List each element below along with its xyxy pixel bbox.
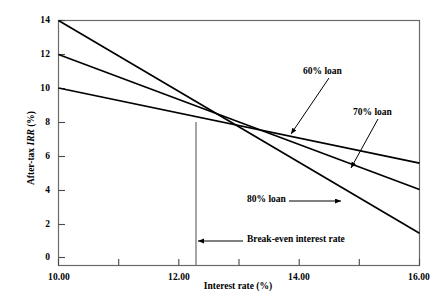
x-axis-title: Interest rate (%) <box>204 281 272 291</box>
y-axis-title-italic: IRR <box>26 129 36 145</box>
leader-arrow-70-loan <box>351 119 378 168</box>
leader-arrow-60-loan <box>291 78 329 134</box>
annotation-breakeven: Break-even interest rate <box>247 234 345 244</box>
y-axis-title-suffix: (%) <box>26 111 36 129</box>
x-tick-label-12: 12.00 <box>168 272 190 282</box>
x-axis-ticks <box>59 259 420 266</box>
y-axis-title: After-tax IRR (%) <box>26 93 36 203</box>
series-line-70-loan <box>59 55 420 190</box>
annotation-60-loan: 60% loan <box>303 66 342 76</box>
annotation-80-loan: 80% loan <box>247 194 286 204</box>
y-axis-title-prefix: After-tax <box>26 146 36 185</box>
annotation-70-loan: 70% loan <box>353 107 392 117</box>
y-tick-label-0: 0 <box>28 252 50 262</box>
chart-figure: 14 12 10 8 6 4 2 0 10.00 12.00 14.00 16.… <box>0 0 444 302</box>
y-tick-label-12: 12 <box>28 49 50 59</box>
chart-plot-area <box>0 0 444 302</box>
y-tick-label-10: 10 <box>28 83 50 93</box>
series-line-60-loan <box>59 88 420 163</box>
y-tick-label-2: 2 <box>28 219 50 229</box>
x-tick-label-10: 10.00 <box>48 272 70 282</box>
x-tick-label-16: 16.00 <box>408 272 430 282</box>
y-tick-label-14: 14 <box>28 15 50 25</box>
x-tick-label-14: 14.00 <box>288 272 310 282</box>
plot-frame <box>59 21 420 266</box>
series-line-80-loan <box>59 21 420 234</box>
